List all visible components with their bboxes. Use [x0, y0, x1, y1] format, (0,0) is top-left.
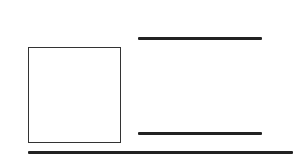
top-horizontal-line [138, 37, 262, 40]
bottom-baseline [28, 151, 293, 154]
middle-horizontal-line [138, 132, 262, 135]
square-box [28, 47, 121, 143]
diagram-canvas [0, 0, 301, 167]
